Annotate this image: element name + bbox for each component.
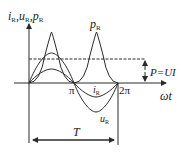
tick-pi: π	[69, 84, 75, 96]
x-axis-label: ωt	[160, 89, 172, 103]
average-power-label: P=UI	[149, 66, 177, 78]
i-r-label: iR	[93, 84, 100, 96]
p-r-curve	[29, 32, 118, 83]
period-label: T	[73, 125, 81, 139]
p-r-label: pR	[89, 17, 101, 32]
u-r-label: uR	[100, 113, 109, 125]
y-axis-label: iR,uR,pR	[8, 9, 44, 24]
tick-2pi: 2π	[119, 84, 131, 96]
resistive-power-diagram: iR,uR,pR pR iR uR π 2π ωt P=UI T	[0, 0, 190, 152]
